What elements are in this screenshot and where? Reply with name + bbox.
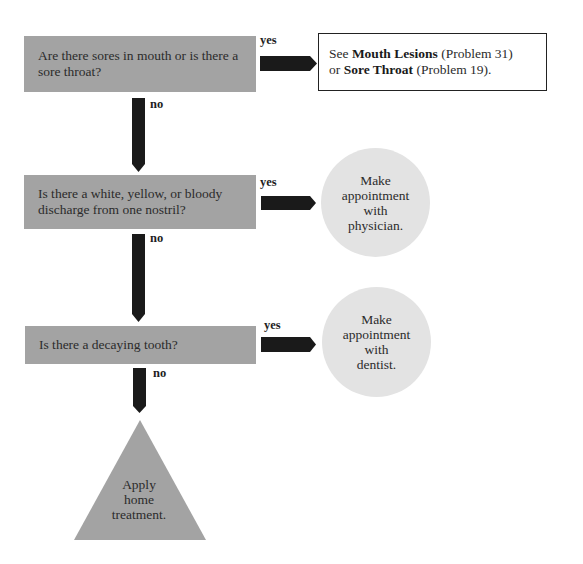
sore-throat-ref: Sore Throat: [344, 62, 413, 77]
question-box-2: Is there a white, yellow, or bloody disc…: [24, 175, 256, 229]
no-arrow-2-icon: [132, 234, 146, 323]
no-arrow-1-icon: [132, 98, 146, 173]
question-3-text: Is there a decaying tooth?: [39, 337, 178, 353]
yes-label-1: yes: [260, 33, 277, 48]
yes-arrow-3-icon: [261, 337, 317, 353]
yes-arrow-2-icon: [261, 196, 317, 211]
yes-arrow-1-icon: [260, 56, 318, 72]
referral-text: See Mouth Lesions (Problem 31) or Sore T…: [329, 46, 513, 78]
mouth-lesions-ref: Mouth Lesions: [352, 46, 438, 61]
question-box-1: Are there sores in mouth or is there a s…: [24, 36, 256, 92]
question-box-3: Is there a decaying tooth?: [25, 326, 256, 364]
yes-label-3: yes: [264, 318, 281, 333]
dentist-outcome-circle: Make appointment with dentist.: [322, 287, 431, 397]
no-label-3: no: [153, 366, 166, 381]
physician-outcome-circle: Make appointment with physician.: [321, 148, 430, 257]
question-2-text: Is there a white, yellow, or bloody disc…: [38, 186, 242, 218]
referral-result-box: See Mouth Lesions (Problem 31) or Sore T…: [318, 33, 547, 91]
yes-label-2: yes: [260, 175, 277, 190]
no-label-1: no: [150, 97, 163, 112]
no-arrow-3-icon: [133, 368, 147, 414]
no-label-2: no: [150, 231, 163, 246]
question-1-text: Are there sores in mouth or is there a s…: [38, 48, 242, 80]
home-treatment-text: Apply home treatment.: [99, 477, 179, 522]
